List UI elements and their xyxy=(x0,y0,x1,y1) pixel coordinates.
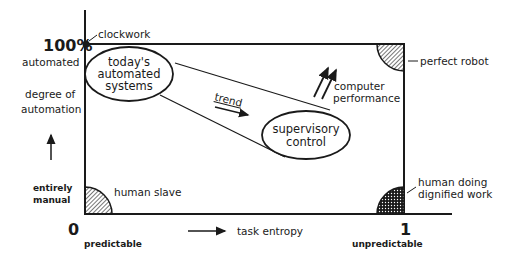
perfect-robot-label: perfect robot xyxy=(420,55,489,67)
origin-label: 0 xyxy=(68,220,79,239)
supervisory-line2: control xyxy=(286,135,326,149)
y-bottom-label-line1: entirely xyxy=(33,183,73,193)
human-slave-region xyxy=(85,187,112,214)
x-right-label: unpredictable xyxy=(352,239,423,249)
human-slave-label: human slave xyxy=(114,186,181,198)
automation-diagram: 100% automated degree of automation enti… xyxy=(0,0,508,269)
dignified-work-region xyxy=(377,187,404,214)
x-axis-title: task entropy xyxy=(237,225,303,237)
computer-performance-line1: computer xyxy=(334,80,385,92)
band-upper-line xyxy=(175,63,330,110)
dignified-work-leader xyxy=(407,187,416,193)
trend-label: trend xyxy=(214,90,244,108)
computer-performance-line2: performance xyxy=(333,92,400,104)
trend-arrow xyxy=(215,107,248,115)
y-bottom-label-line2: manual xyxy=(33,195,70,205)
y-title-line1: degree of xyxy=(25,88,76,100)
y-top-value: 100% xyxy=(43,36,92,55)
y-top-label: automated xyxy=(22,56,80,68)
x-left-label: predictable xyxy=(84,239,142,249)
perfect-robot-region xyxy=(377,44,404,71)
automated-systems-line3: systems xyxy=(105,79,153,93)
dignified-work-label-line2: dignified work xyxy=(418,188,493,200)
dignified-work-label-line1: human doing xyxy=(418,176,487,188)
x-right-value: 1 xyxy=(400,220,411,239)
supervisory-line1: supervisory xyxy=(273,122,340,136)
clockwork-label: clockwork xyxy=(98,28,151,40)
y-title-line2: automation xyxy=(21,103,81,115)
